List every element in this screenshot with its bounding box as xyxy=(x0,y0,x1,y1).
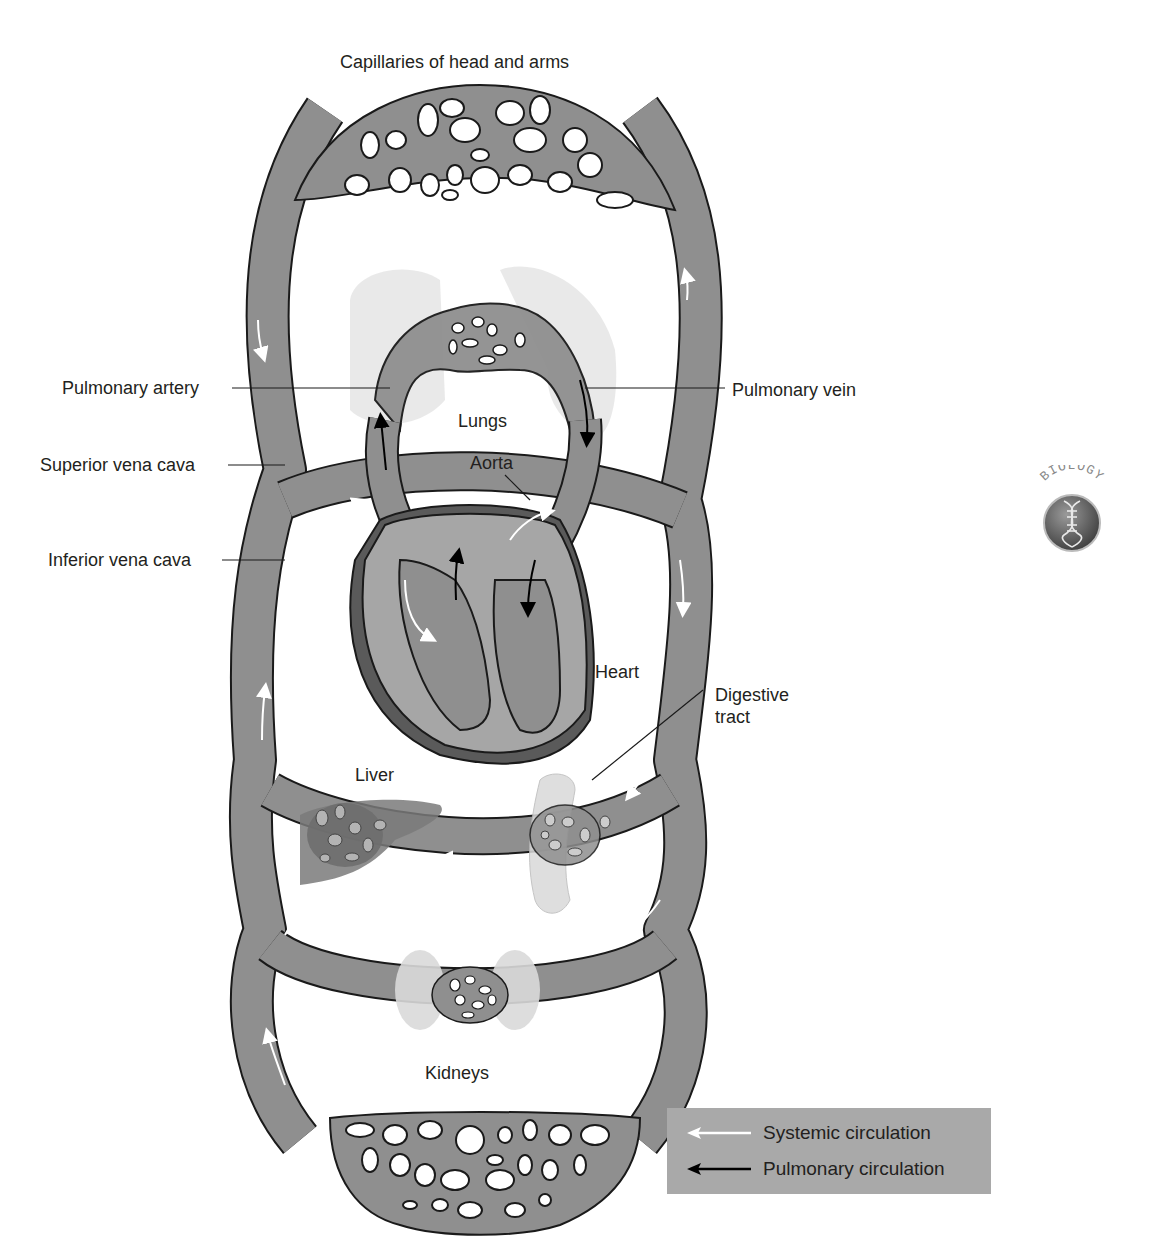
biology-badge: BIOLOGY xyxy=(1022,465,1122,555)
label-heart: Heart xyxy=(595,662,639,682)
legend-label-systemic: Systemic circulation xyxy=(763,1122,931,1144)
label-digestive-tract-line2: tract xyxy=(715,707,750,727)
black-arrow-icon xyxy=(687,1163,751,1175)
kidneys xyxy=(395,950,540,1030)
capillaries-lower-body xyxy=(330,1112,640,1235)
label-lungs: Lungs xyxy=(458,411,507,431)
legend-label-pulmonary: Pulmonary circulation xyxy=(763,1158,945,1180)
label-digestive-tract-line1: Digestive xyxy=(715,685,789,705)
badge-text: BIOLOGY xyxy=(1037,465,1107,484)
legend-item-systemic: Systemic circulation xyxy=(687,1122,931,1144)
label-pulmonary-vein: Pulmonary vein xyxy=(732,380,856,400)
label-inferior-vena-cava: Inferior vena cava xyxy=(48,550,191,570)
legend-item-pulmonary: Pulmonary circulation xyxy=(687,1158,945,1180)
label-liver: Liver xyxy=(355,765,394,785)
label-superior-vena-cava: Superior vena cava xyxy=(40,455,195,475)
title-capillaries-head-arms: Capillaries of head and arms xyxy=(340,52,569,72)
capillaries-head-arms xyxy=(295,85,675,210)
legend: Systemic circulation Pulmonary circulati… xyxy=(667,1108,991,1194)
circulatory-system-diagram xyxy=(0,0,1162,1255)
heart xyxy=(350,505,593,764)
label-pulmonary-artery: Pulmonary artery xyxy=(62,378,199,398)
label-kidneys: Kidneys xyxy=(425,1063,489,1083)
white-arrow-icon xyxy=(687,1127,751,1139)
digestive-tract xyxy=(530,774,610,913)
label-aorta: Aorta xyxy=(470,453,513,473)
svg-text:BIOLOGY: BIOLOGY xyxy=(1037,465,1107,484)
